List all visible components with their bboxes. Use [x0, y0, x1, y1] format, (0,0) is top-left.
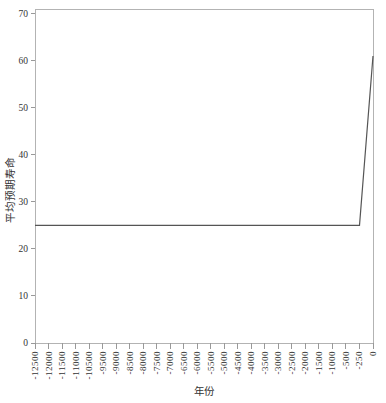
x-tick-label: -4000	[246, 351, 256, 375]
y-tick-label: 60	[19, 56, 29, 66]
data-line	[35, 56, 373, 225]
x-tick-label: -6500	[179, 351, 189, 375]
x-tick-label: -6000	[192, 351, 202, 375]
x-tick-label: -9500	[98, 351, 108, 375]
x-tick-label: -12500	[30, 351, 40, 380]
line-chart: 010203040506070-12500-12000-11500-11000-…	[0, 0, 386, 403]
x-tick-label: -5500	[206, 351, 216, 375]
x-tick-label: -1000	[327, 351, 337, 375]
x-tick-label: -10500	[84, 351, 94, 380]
y-tick-label: 70	[19, 9, 29, 19]
x-tick-label: -8500	[125, 351, 135, 375]
x-axis-title: 年份	[35, 383, 373, 398]
y-tick-label: 50	[19, 103, 29, 113]
x-tick-label: -11500	[57, 351, 67, 379]
y-tick-label: 30	[19, 197, 29, 207]
chart-figure: 010203040506070-12500-12000-11500-11000-…	[0, 0, 386, 403]
x-tick-label: 0	[368, 351, 378, 356]
y-tick-label: 40	[19, 150, 29, 160]
y-tick-label: 10	[19, 291, 29, 301]
y-axis-title: 平均预期寿命	[2, 157, 17, 223]
x-tick-label: -500	[341, 351, 351, 370]
y-tick-label: 0	[23, 338, 28, 348]
x-tick-label: -2000	[300, 351, 310, 375]
x-tick-label: -11000	[71, 351, 81, 379]
x-tick-label: -250	[354, 351, 364, 370]
y-tick-label: 20	[19, 244, 29, 254]
plot-border	[35, 9, 373, 343]
x-tick-label: -1500	[314, 351, 324, 375]
x-tick-label: -4500	[233, 351, 243, 375]
x-tick-label: -3000	[273, 351, 283, 375]
x-tick-label: -7500	[152, 351, 162, 375]
x-tick-label: -5000	[219, 351, 229, 375]
x-tick-label: -8000	[138, 351, 148, 375]
x-tick-label: -12000	[44, 351, 54, 380]
x-tick-label: -3500	[260, 351, 270, 375]
x-tick-label: -9000	[111, 351, 121, 375]
x-tick-label: -2500	[287, 351, 297, 375]
x-tick-label: -7000	[165, 351, 175, 375]
